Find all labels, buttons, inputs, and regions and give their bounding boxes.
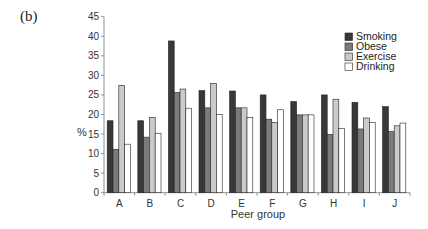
legend-swatch-exercise-icon (345, 53, 353, 61)
x-tick-label: G (299, 198, 307, 209)
bar-smoking-H (321, 95, 327, 193)
bar-exercise-G (302, 115, 308, 193)
y-tick-label: 15 (88, 129, 100, 140)
y-axis: 051015202530354045 (88, 11, 104, 198)
bar-group-A (107, 86, 130, 193)
bar-obese-H (327, 134, 333, 192)
bar-drinking-E (247, 118, 253, 193)
bar-exercise-C (180, 89, 186, 193)
bar-drinking-B (155, 133, 161, 192)
y-tick-label: 0 (93, 187, 99, 198)
bar-drinking-A (125, 144, 131, 192)
legend-swatch-obese-icon (345, 43, 353, 51)
bar-exercise-J (394, 126, 400, 193)
bar-obese-G (297, 115, 303, 193)
x-tick-label: B (147, 198, 154, 209)
bar-group-H (321, 95, 344, 193)
bar-exercise-E (241, 108, 247, 193)
bar-smoking-J (383, 107, 389, 193)
bar-exercise-A (119, 86, 125, 193)
x-tick-label: J (392, 198, 397, 209)
bar-drinking-F (278, 110, 284, 193)
bar-smoking-C (168, 41, 174, 193)
y-tick-label: 20 (88, 109, 100, 120)
bar-group-D (199, 84, 222, 193)
bar-group-F (260, 95, 283, 193)
x-tick-label: H (330, 198, 337, 209)
bar-group-E (230, 91, 253, 193)
bar-obese-B (144, 137, 150, 193)
bar-exercise-F (272, 122, 278, 192)
bar-smoking-D (199, 91, 205, 193)
bar-drinking-J (400, 123, 406, 193)
bar-smoking-G (291, 102, 297, 193)
x-tick-label: C (177, 198, 184, 209)
bar-obese-D (205, 108, 211, 193)
y-tick-label: 45 (88, 11, 100, 22)
bar-smoking-A (107, 121, 113, 193)
y-tick-label: 10 (88, 148, 100, 159)
x-axis-title: Peer group (231, 208, 285, 220)
y-tick-label: 35 (88, 50, 100, 61)
bar-drinking-G (308, 115, 314, 193)
y-tick-label: 40 (88, 31, 100, 42)
bar-drinking-H (339, 129, 345, 193)
y-tick-label: 30 (88, 70, 100, 81)
legend-label-drinking: Drinking (356, 60, 395, 72)
legend-swatch-drinking-icon (345, 63, 353, 71)
bar-obese-A (113, 149, 119, 192)
legend-swatch-smoking-icon (345, 33, 353, 41)
bar-smoking-I (352, 102, 358, 192)
y-axis-title: % (77, 126, 87, 138)
bar-chart: 051015202530354045 ABCDEFGHIJ % Peer gro… (0, 0, 428, 229)
bar-smoking-F (260, 95, 266, 193)
x-tick-label: A (116, 198, 123, 209)
y-tick-label: 5 (93, 168, 99, 179)
bar-group-G (291, 102, 314, 193)
bar-drinking-C (186, 108, 192, 192)
bar-drinking-D (216, 114, 222, 192)
x-tick-label: I (363, 198, 366, 209)
bar-group-C (168, 41, 191, 193)
bar-exercise-B (149, 118, 155, 193)
bar-obese-F (266, 119, 272, 193)
x-axis: ABCDEFGHIJ (104, 193, 410, 209)
bar-obese-J (388, 132, 394, 193)
bar-group-B (138, 118, 161, 193)
legend: SmokingObeseExerciseDrinking (345, 30, 397, 72)
x-tick-label: D (207, 198, 214, 209)
bar-exercise-D (211, 84, 217, 193)
y-tick-label: 25 (88, 89, 100, 100)
bar-obese-E (235, 108, 241, 193)
bar-group-I (352, 102, 375, 192)
bar-exercise-I (364, 118, 370, 193)
bar-group-J (383, 107, 406, 193)
bar-exercise-H (333, 99, 339, 192)
bar-smoking-E (230, 91, 236, 193)
bar-obese-C (174, 93, 180, 193)
bar-drinking-I (369, 123, 375, 193)
bar-obese-I (358, 129, 364, 193)
bar-smoking-B (138, 121, 144, 193)
